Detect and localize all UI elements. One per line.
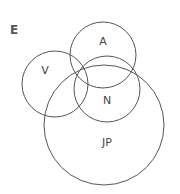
circle-a bbox=[70, 22, 136, 88]
circle-v bbox=[22, 51, 88, 117]
label-v: V bbox=[41, 64, 49, 77]
panel-label: E bbox=[10, 23, 18, 37]
venn-diagram: E A V N JP bbox=[0, 0, 180, 194]
circle-jp bbox=[44, 65, 164, 185]
label-n: N bbox=[103, 94, 111, 107]
circle-n bbox=[74, 56, 140, 122]
label-jp: JP bbox=[101, 136, 112, 149]
label-a: A bbox=[99, 35, 107, 48]
